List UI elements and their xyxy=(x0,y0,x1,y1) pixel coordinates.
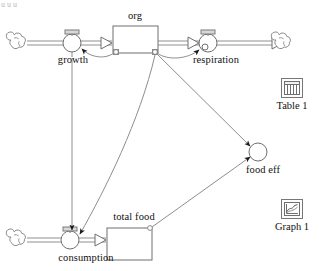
tool-label-graph-1: Graph 1 xyxy=(272,221,312,232)
tool-table-1[interactable]: Table 1 xyxy=(272,78,312,111)
tool-label-table-1: Table 1 xyxy=(272,100,312,111)
stock-label-org: org xyxy=(128,10,142,21)
stock-total-food[interactable] xyxy=(107,228,152,260)
valve-consumption[interactable] xyxy=(61,227,79,249)
stock-label-total-food: total food xyxy=(113,211,155,222)
valve-growth[interactable] xyxy=(63,30,81,57)
table-icon xyxy=(281,78,303,98)
model-canvas[interactable]: uuu xyxy=(0,0,319,271)
anchor-org-br xyxy=(153,50,158,55)
valve-respiration[interactable] xyxy=(199,30,217,52)
converter-food-eff[interactable] xyxy=(249,143,267,161)
converter-label-food-eff: food eff xyxy=(246,164,280,175)
connector-total-food-to-food-eff xyxy=(152,157,250,227)
anchor-total-food-tr xyxy=(148,226,153,231)
cloud-source-growth[interactable] xyxy=(6,32,25,49)
cloud-source-consumption[interactable] xyxy=(6,229,25,246)
tool-graph-1[interactable]: Graph 1 xyxy=(272,199,312,232)
anchor-org-bl xyxy=(114,50,119,55)
flow-arrowheads-bottom xyxy=(95,234,106,246)
connector-org-to-consumption xyxy=(80,55,155,234)
graph-icon xyxy=(281,199,303,219)
flow-label-respiration: respiration xyxy=(193,54,239,65)
connector-org-to-food-eff xyxy=(157,54,250,146)
stock-org[interactable] xyxy=(113,26,158,53)
flow-label-consumption: consumption xyxy=(58,252,113,263)
flow-label-growth: growth xyxy=(58,54,88,65)
